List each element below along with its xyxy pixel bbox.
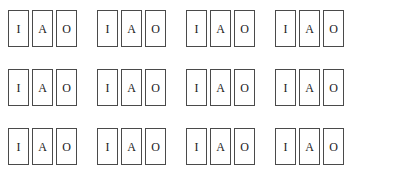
card-letter: O <box>240 82 249 94</box>
letter-card[interactable]: I <box>186 69 207 106</box>
card-letter: I <box>284 82 288 94</box>
card-letter: A <box>127 141 136 153</box>
card-group: I A O <box>275 10 344 47</box>
card-letter: A <box>216 23 225 35</box>
letter-card[interactable]: O <box>234 69 255 106</box>
card-group: I A O <box>97 128 166 165</box>
card-group: I A O <box>275 128 344 165</box>
card-letter: A <box>305 141 314 153</box>
letter-card[interactable]: O <box>234 10 255 47</box>
letter-card[interactable]: I <box>97 69 118 106</box>
letter-card[interactable]: I <box>275 69 296 106</box>
letter-card[interactable]: I <box>97 10 118 47</box>
card-letter: O <box>62 82 71 94</box>
card-group: I A O <box>186 69 255 106</box>
letter-card[interactable]: A <box>299 10 320 47</box>
card-letter: O <box>62 23 71 35</box>
letter-card[interactable]: O <box>323 69 344 106</box>
letter-card[interactable]: A <box>32 128 53 165</box>
card-letter: I <box>106 82 110 94</box>
letter-card[interactable]: A <box>121 69 142 106</box>
letter-card[interactable]: O <box>56 10 77 47</box>
letter-card[interactable]: O <box>56 69 77 106</box>
letter-card[interactable]: A <box>121 10 142 47</box>
card-letter: I <box>17 82 21 94</box>
letter-card[interactable]: A <box>32 10 53 47</box>
letter-card[interactable]: O <box>145 10 166 47</box>
card-letter: I <box>284 141 288 153</box>
card-letter: I <box>17 23 21 35</box>
letter-card[interactable]: A <box>299 69 320 106</box>
card-group: I A O <box>8 128 77 165</box>
letter-card[interactable]: A <box>121 128 142 165</box>
letter-card[interactable]: O <box>323 128 344 165</box>
card-row: I A O I A O I A O I A O <box>8 128 392 165</box>
card-letter: A <box>38 23 47 35</box>
card-letter: I <box>106 23 110 35</box>
card-group: I A O <box>8 10 77 47</box>
card-letter: I <box>195 23 199 35</box>
card-letter: I <box>195 82 199 94</box>
card-group: I A O <box>97 69 166 106</box>
card-letter: A <box>216 82 225 94</box>
letter-card[interactable]: I <box>275 128 296 165</box>
card-letter: A <box>305 23 314 35</box>
letter-card[interactable]: I <box>8 128 29 165</box>
card-letter: I <box>17 141 21 153</box>
card-group: I A O <box>97 10 166 47</box>
card-letter: O <box>329 23 338 35</box>
card-group: I A O <box>8 69 77 106</box>
letter-card[interactable]: A <box>32 69 53 106</box>
card-letter: O <box>240 141 249 153</box>
card-letter: O <box>151 141 160 153</box>
card-letter: A <box>38 141 47 153</box>
card-letter: O <box>329 141 338 153</box>
card-letter: A <box>127 23 136 35</box>
letter-card[interactable]: O <box>145 69 166 106</box>
letter-card[interactable]: I <box>275 10 296 47</box>
card-letter: A <box>127 82 136 94</box>
card-letter: I <box>195 141 199 153</box>
letter-card[interactable]: A <box>299 128 320 165</box>
letter-card[interactable]: I <box>97 128 118 165</box>
letter-card[interactable]: A <box>210 128 231 165</box>
card-letter: I <box>106 141 110 153</box>
letter-card[interactable]: I <box>8 10 29 47</box>
card-letter: O <box>62 141 71 153</box>
card-group: I A O <box>275 69 344 106</box>
card-letter: O <box>329 82 338 94</box>
card-letter: A <box>305 82 314 94</box>
letter-card[interactable]: A <box>210 10 231 47</box>
card-letter: O <box>151 82 160 94</box>
letter-card[interactable]: O <box>234 128 255 165</box>
letter-card[interactable]: I <box>186 128 207 165</box>
letter-card[interactable]: I <box>186 10 207 47</box>
card-letter: A <box>38 82 47 94</box>
card-group: I A O <box>186 10 255 47</box>
letter-card[interactable]: O <box>323 10 344 47</box>
letter-card[interactable]: I <box>8 69 29 106</box>
card-row: I A O I A O I A O I A O <box>8 69 392 106</box>
card-letter: I <box>284 23 288 35</box>
card-row: I A O I A O I A O I A O <box>8 10 392 47</box>
letter-card[interactable]: O <box>56 128 77 165</box>
card-group: I A O <box>186 128 255 165</box>
card-letter: O <box>240 23 249 35</box>
card-letter: A <box>216 141 225 153</box>
card-grid: I A O I A O I A O I A O I A O I A O <box>0 0 400 179</box>
card-letter: O <box>151 23 160 35</box>
letter-card[interactable]: O <box>145 128 166 165</box>
letter-card[interactable]: A <box>210 69 231 106</box>
